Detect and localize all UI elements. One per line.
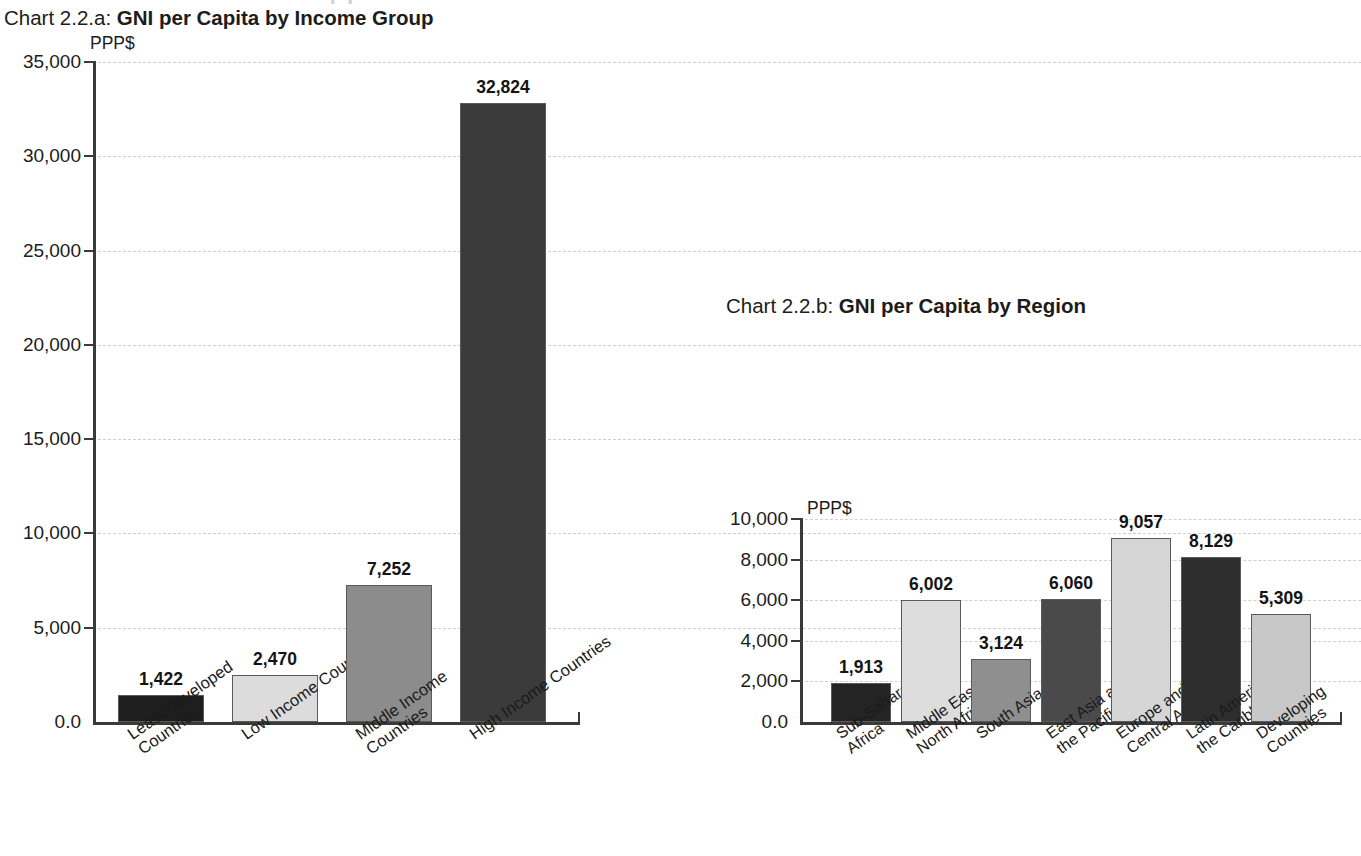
- y-axis-tick: [84, 627, 96, 629]
- chart-b-unit-label: PPP$: [807, 498, 852, 519]
- y-axis-tick: [791, 640, 803, 642]
- x-axis-end-tick: [1340, 712, 1342, 725]
- bar-value-label: 6,060: [1019, 575, 1123, 593]
- gridline: [800, 560, 1361, 561]
- chart-a-title-strong: GNI per Capita by Income Group: [117, 6, 434, 29]
- y-axis-tick: [84, 61, 96, 63]
- clipped-page-header: ( ): [330, 0, 750, 4]
- chart-a-title-lead: Chart 2.2.a:: [4, 6, 111, 29]
- y-axis-label: 15,000: [0, 429, 81, 448]
- chart-b-title-lead: Chart 2.2.b:: [726, 294, 833, 317]
- x-axis-end-tick: [578, 712, 580, 725]
- y-axis-tick: [84, 532, 96, 534]
- bar-value-label: 7,252: [324, 561, 454, 579]
- chart-a-title: Chart 2.2.a: GNI per Capita by Income Gr…: [4, 6, 434, 30]
- bar-value-label: 9,057: [1089, 514, 1193, 532]
- y-axis-line: [800, 519, 803, 724]
- y-axis-label: 4,000: [670, 631, 788, 650]
- y-axis-tick: [84, 438, 96, 440]
- gridline: [93, 345, 1361, 346]
- y-axis-label: 0.0: [0, 712, 81, 731]
- y-axis-label: 0.0: [670, 712, 788, 731]
- gridline: [93, 439, 1361, 440]
- y-axis-label: 6,000: [670, 590, 788, 609]
- y-axis-label: 10,000: [0, 523, 81, 542]
- chart-a-unit-label: PPP$: [90, 33, 135, 54]
- figure-page: ( ) Chart 2.2.a: GNI per Capita by Incom…: [0, 0, 1361, 856]
- y-axis-label: 8,000: [670, 550, 788, 569]
- bar-value-label: 8,129: [1159, 533, 1263, 551]
- chart-b-title: Chart 2.2.b: GNI per Capita by Region: [726, 294, 1086, 318]
- y-axis-label: 20,000: [0, 335, 81, 354]
- bar[interactable]: [460, 103, 546, 722]
- y-axis-tick: [84, 155, 96, 157]
- y-axis-tick: [791, 518, 803, 520]
- gridline: [800, 519, 1361, 520]
- y-axis-label: 5,000: [0, 618, 81, 637]
- bar-value-label: 5,309: [1229, 590, 1333, 608]
- y-axis-label: 35,000: [0, 52, 81, 71]
- bar-value-label: 3,124: [949, 635, 1053, 653]
- y-axis-tick: [791, 559, 803, 561]
- y-axis-tick: [791, 680, 803, 682]
- bar-value-label: 32,824: [438, 79, 568, 97]
- y-axis-tick: [791, 599, 803, 601]
- bar-value-label: 1,913: [809, 659, 913, 677]
- y-axis-tick: [84, 344, 96, 346]
- y-axis-label: 30,000: [0, 146, 81, 165]
- y-axis-tick: [84, 250, 96, 252]
- gridline: [93, 251, 1361, 252]
- bar-value-label: 6,002: [879, 576, 983, 594]
- bar-value-label: 2,470: [210, 651, 340, 669]
- chart-b-title-strong: GNI per Capita by Region: [839, 294, 1086, 317]
- y-axis-label: 25,000: [0, 241, 81, 260]
- gridline: [93, 156, 1361, 157]
- y-axis-label: 10,000: [670, 509, 788, 528]
- y-axis-line: [93, 62, 96, 724]
- y-axis-label: 2,000: [670, 671, 788, 690]
- gridline: [93, 62, 1361, 63]
